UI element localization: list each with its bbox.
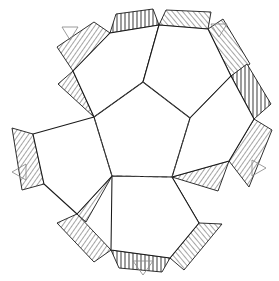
net-diagram-figure: Dodecahedron net Hand-drawn paper-foldin… (0, 0, 279, 281)
face-lower-left (33, 117, 112, 214)
tab-bottom-left (57, 214, 111, 262)
net-drawing-canvas (0, 0, 279, 281)
